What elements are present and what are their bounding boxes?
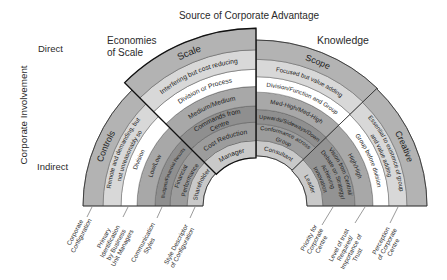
group-label-knowledge: Knowledge (317, 34, 369, 46)
dimension-label-text: Perceptionof CorporateCentre (369, 223, 404, 264)
dimension-label: CorporateConfiguration (63, 207, 94, 254)
dimension-label-text: Level of trustRequired/Importance ofTrus… (326, 226, 369, 273)
group-label-economies-of-scale: Economies of Scale (107, 35, 159, 58)
dimension-label: Level of trustRequired/Importance ofTrus… (326, 207, 369, 273)
dimension-labels-layer: CorporateConfigurationPrimaryIdentificat… (63, 207, 405, 273)
leader-line (123, 207, 128, 217)
leader-line (190, 207, 195, 218)
leader-line (87, 207, 92, 217)
dimension-label: Priority forCorporateCentre (299, 207, 333, 258)
dimension-label-text: Priority forCorporateCentre (299, 223, 331, 258)
leader-line (355, 207, 365, 223)
leader-line (157, 207, 162, 218)
axis-label-indirect: Indirect (37, 161, 69, 172)
dimension-label: Perceptionof CorporateCentre (369, 207, 404, 264)
dimension-label: Style Descriptorof Configuration (162, 207, 196, 269)
corporate-advantage-diagram: Source of Corporate Advantage Economies … (0, 0, 447, 280)
dimension-label: CommunicationStyles (129, 207, 163, 267)
leader-line (322, 207, 333, 225)
dimension-label-text: CommunicationStyles (129, 221, 163, 267)
leader-line (390, 207, 398, 223)
axis-title-corporate-involvement: Corporate Involvement (18, 65, 29, 164)
diagram-title: Source of Corporate Advantage (179, 10, 320, 21)
dimension-label-text: Style Descriptorof Configuration (162, 223, 196, 270)
dimension-label-text: CorporateConfiguration (63, 214, 94, 255)
axis-label-direct: Direct (38, 43, 63, 54)
